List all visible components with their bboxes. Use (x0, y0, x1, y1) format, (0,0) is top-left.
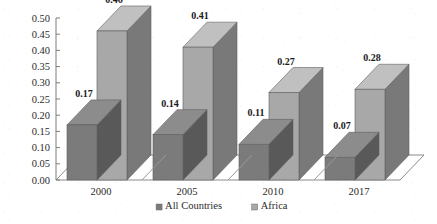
x-axis-tick-label: 2017 (349, 186, 370, 197)
y-axis-tick-label: 0.35 (32, 61, 50, 72)
chart-legend: All CountriesAfrica (156, 200, 288, 211)
y-axis-tick-label: 0.10 (32, 142, 50, 153)
bar-value-label: 0.17 (75, 88, 93, 99)
y-axis-tick-label: 0.45 (32, 29, 50, 40)
x-axis-tick-label: 2005 (177, 186, 198, 197)
bar-value-label: 0.28 (363, 52, 381, 63)
bar-value-label: 0.27 (277, 56, 295, 67)
legend-label: Africa (261, 200, 288, 211)
y-axis-tick-label: 0.05 (32, 158, 50, 169)
y-axis-tick-label: 0.00 (32, 175, 50, 186)
bar-value-label: 0.46 (105, 0, 123, 5)
y-axis-tick-label: 0.25 (32, 94, 50, 105)
y-axis-tick-label: 0.20 (32, 110, 50, 121)
y-axis-tick-label: 0.30 (32, 77, 50, 88)
legend-swatch (156, 204, 162, 210)
legend-label: All Countries (165, 200, 222, 211)
y-axis-tick-label: 0.50 (32, 13, 50, 24)
bars-group (67, 6, 409, 180)
legend-swatch (252, 204, 258, 210)
bar-value-label: 0.07 (333, 120, 351, 131)
x-axis-tick-label: 2000 (91, 186, 112, 197)
y-axis-tick-labels: 0.500.450.400.350.300.250.200.150.100.05… (32, 13, 50, 186)
bar-value-label: 0.41 (191, 10, 209, 21)
y-axis-tick-label: 0.15 (32, 126, 50, 137)
bar-value-label: 0.11 (248, 107, 265, 118)
x-axis-tick-label: 2010 (263, 186, 284, 197)
bar-chart: 0.500.450.400.350.300.250.200.150.100.05… (0, 0, 437, 224)
bar-value-label: 0.14 (161, 98, 179, 109)
chart-canvas: 0.500.450.400.350.300.250.200.150.100.05… (0, 0, 437, 224)
x-axis-tick-labels: 2000200520102017 (91, 186, 370, 197)
y-axis (56, 18, 60, 180)
y-axis-tick-label: 0.40 (32, 45, 50, 56)
